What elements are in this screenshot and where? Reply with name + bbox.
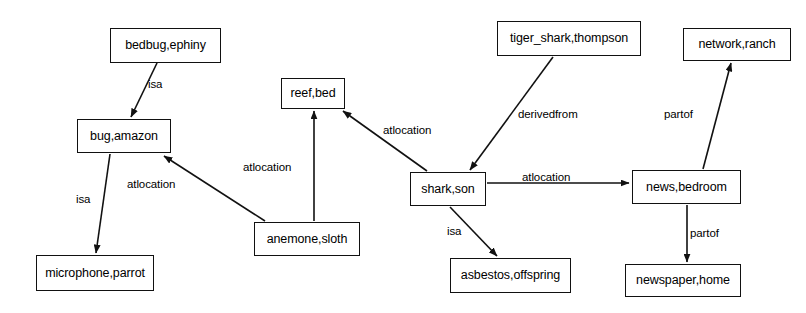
node-microphone[interactable]: microphone,parrot	[36, 255, 154, 291]
node-label: newspaper,home	[636, 274, 730, 287]
knowledge-graph-diagram: bedbug,ephinybug,amazonmicrophone,parrot…	[0, 0, 806, 313]
node-label: anemone,sloth	[267, 233, 348, 246]
node-label: news,bedroom	[646, 181, 727, 194]
edge-label-e1: isa	[148, 79, 162, 91]
edge-label-e2: isa	[76, 194, 90, 206]
node-label: tiger_shark,thompson	[510, 32, 628, 45]
node-newspaper[interactable]: newspaper,home	[625, 264, 741, 297]
node-bedbug[interactable]: bedbug,ephiny	[110, 28, 221, 63]
edge-label-e4: atlocation	[243, 162, 291, 174]
node-label: reef,bed	[290, 87, 335, 100]
edge-label-e8: isa	[447, 226, 461, 238]
node-shark[interactable]: shark,son	[410, 172, 486, 206]
edge-label-e5: atlocation	[383, 125, 431, 137]
node-news[interactable]: news,bedroom	[632, 170, 741, 204]
edge-label-e3: atlocation	[127, 179, 175, 191]
edge-bug-to-microphone	[96, 154, 110, 253]
edge-label-e6: derivedfrom	[518, 109, 578, 121]
edge-news-to-network	[703, 63, 731, 169]
node-anemone[interactable]: anemone,sloth	[254, 222, 360, 256]
edge-label-e10: partof	[690, 228, 719, 240]
edge-shark-to-reef	[343, 111, 427, 171]
node-label: shark,son	[421, 183, 474, 196]
node-label: bug,amazon	[90, 130, 158, 143]
node-label: asbestos,offspring	[461, 269, 560, 282]
node-label: bedbug,ephiny	[125, 39, 206, 52]
node-tiger[interactable]: tiger_shark,thompson	[497, 21, 641, 56]
node-label: microphone,parrot	[45, 267, 145, 280]
node-label: network,ranch	[698, 38, 775, 51]
edge-label-e7: atlocation	[522, 172, 570, 184]
edge-label-e9: partof	[664, 109, 693, 121]
node-reef[interactable]: reef,bed	[281, 78, 345, 109]
node-bug[interactable]: bug,amazon	[77, 119, 171, 153]
node-asbestos[interactable]: asbestos,offspring	[450, 258, 571, 293]
edge-lines	[96, 57, 731, 262]
node-network[interactable]: network,ranch	[683, 28, 791, 61]
